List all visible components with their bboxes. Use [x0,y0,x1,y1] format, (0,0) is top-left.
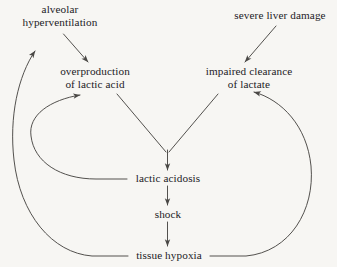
edge-tissue-hypoxia-to-impaired-clearance [210,92,311,256]
node-alveolar-hyperventilation: alveolar hyperventilation [8,3,112,28]
node-severe-liver-damage: severe liver damage [226,9,334,22]
edge-overproduction-to-lactic-acidosis [117,94,166,152]
edge-layer [0,0,337,267]
node-overproduction-of-lactic-acid: overproduction of lactic acid [48,65,142,90]
node-impaired-clearance-of-lactate: impaired clearance of lactate [196,65,302,90]
edge-impaired-clearance-to-lactic-acidosis [169,94,218,152]
edge-liver-damage-to-impaired-clearance [245,26,276,62]
node-tissue-hypoxia: tissue hypoxia [130,249,208,262]
edge-hyperventilation-to-overproduction [64,34,89,62]
node-label-line: of lactate [196,78,302,91]
node-lactic-acidosis: lactic acidosis [129,172,207,185]
node-label-line: tissue hypoxia [130,249,208,262]
node-label-line: impaired clearance [196,65,302,78]
node-label-line: alveolar [8,3,112,16]
diagram-canvas: alveolar hyperventilation severe liver d… [0,0,337,267]
edge-lactic-acidosis-to-overproduction [31,95,127,179]
node-label-line: shock [150,208,186,221]
node-label-line: of lactic acid [48,78,142,91]
node-label-line: hyperventilation [8,16,112,29]
node-shock: shock [150,208,186,221]
node-label-line: severe liver damage [226,9,334,22]
node-label-line: lactic acidosis [129,172,207,185]
node-label-line: overproduction [48,65,142,78]
